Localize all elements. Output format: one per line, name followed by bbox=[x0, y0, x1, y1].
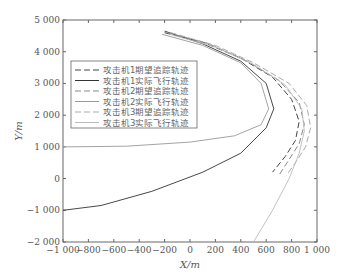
y-tick-label: 0 bbox=[54, 174, 60, 184]
x-tick-label: 0 bbox=[187, 245, 193, 255]
y-tick-label: 2 000 bbox=[34, 110, 60, 120]
legend-entry: 攻击机1期望追踪轨迹 bbox=[103, 65, 189, 75]
legend-entry: 攻击机3期望追踪轨迹 bbox=[103, 107, 189, 117]
y-tick-label: 1 000 bbox=[34, 142, 60, 152]
x-tick-label: 1 000 bbox=[304, 245, 330, 255]
legend-entry: 攻击机2实际飞行轨迹 bbox=[103, 97, 189, 107]
legend-entry: 攻击机3实际飞行轨迹 bbox=[103, 118, 189, 128]
x-tick-label: 200 bbox=[207, 245, 224, 255]
y-tick-label: 3 000 bbox=[34, 78, 60, 88]
x-tick-label: 400 bbox=[232, 245, 249, 255]
x-tick-label: −400 bbox=[127, 245, 152, 255]
x-tick-label: −200 bbox=[152, 245, 177, 255]
x-axis-label: X/m bbox=[179, 259, 200, 270]
y-tick-label: 4 000 bbox=[34, 47, 60, 57]
trajectory-chart: −1 000−800−600−400−20002004006008001 000… bbox=[0, 0, 345, 279]
x-tick-label: 800 bbox=[283, 245, 300, 255]
y-tick-label: −2 000 bbox=[27, 237, 61, 247]
legend-entry: 攻击机2期望追踪轨迹 bbox=[103, 86, 189, 96]
y-axis-label: Y/m bbox=[13, 121, 24, 140]
chart: −1 000−800−600−400−20002004006008001 000… bbox=[0, 0, 345, 279]
x-tick-label: 600 bbox=[258, 245, 275, 255]
y-tick-label: −1 000 bbox=[27, 205, 61, 215]
y-tick-label: 5 000 bbox=[34, 15, 60, 25]
plot-frame bbox=[63, 20, 317, 242]
legend-entry: 攻击机1实际飞行轨迹 bbox=[103, 76, 189, 86]
x-tick-label: −800 bbox=[76, 245, 101, 255]
x-tick-label: −600 bbox=[101, 245, 126, 255]
